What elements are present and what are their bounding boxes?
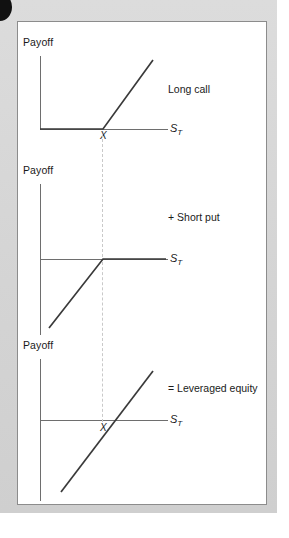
strike-label-leveraged-equity: X	[100, 422, 107, 433]
x-axis-label-long-call: ST	[170, 122, 182, 137]
x-axis-label-sub: T	[177, 128, 182, 137]
x-axis-label-sub: T	[177, 258, 182, 267]
x-axis-label-short-put: ST	[170, 252, 182, 267]
x-axis-label-sub: T	[177, 419, 182, 428]
series-label-long-call: Long call	[168, 83, 210, 95]
figure-panel: Payoff ST X Long call Payoff	[17, 21, 267, 505]
strike-guide-line-lower	[102, 262, 103, 422]
series-label-leveraged-equity: = Leveraged equity	[168, 382, 258, 394]
figure-page: Payoff ST X Long call Payoff	[0, 0, 289, 538]
chart-short-put: Payoff ST + Short put	[18, 147, 268, 317]
strike-label-long-call: X	[100, 130, 107, 141]
series-label-short-put: + Short put	[168, 211, 220, 223]
chart-leveraged-equity: Payoff ST X = Leveraged equity	[18, 327, 268, 502]
chart-long-call: Payoff ST X Long call	[18, 22, 268, 167]
payoff-curve-short-put	[18, 147, 268, 337]
payoff-curve-leveraged-equity	[18, 327, 268, 502]
strike-guide-line-upper	[102, 134, 103, 257]
x-axis-label-leveraged-equity: ST	[170, 413, 182, 428]
payoff-curve-long-call	[18, 22, 268, 167]
